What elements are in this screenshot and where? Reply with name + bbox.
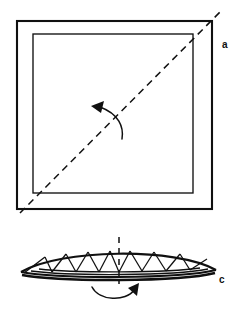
fan-rotation-arrow-curve xyxy=(92,287,134,298)
fold-rotation-arrow-curve xyxy=(100,107,122,139)
panel-label-c: c xyxy=(219,275,225,285)
panel-label-a: a xyxy=(222,40,228,50)
panel-a-group xyxy=(17,10,222,213)
fan-rib-14 xyxy=(180,254,190,270)
fan-rib-3 xyxy=(52,254,66,272)
fan-rib-1 xyxy=(24,257,45,273)
fold-rotation-arrow-head xyxy=(91,101,104,113)
figure-drawing xyxy=(0,0,248,312)
figure-container: a c xyxy=(0,0,248,312)
panel-c-group xyxy=(21,237,216,298)
diagonal-fold-dashed-line xyxy=(20,10,222,213)
